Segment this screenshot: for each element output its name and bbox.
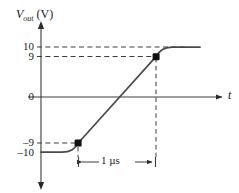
y-axis-arrow-down bbox=[38, 182, 44, 190]
y-axis-title-subscript: out bbox=[23, 14, 33, 23]
y-axis-title: Vout (V) bbox=[16, 8, 53, 23]
vout-curve bbox=[41, 47, 200, 152]
x-axis-title: t bbox=[228, 89, 231, 101]
marker-upper-knee bbox=[153, 53, 160, 60]
y-tick-label-9: 9 bbox=[8, 51, 34, 62]
y-axis-title-units: (V) bbox=[37, 7, 54, 21]
slew-rate-figure: Vout (V) 10 9 0 –9 –10 t 1 µs bbox=[0, 0, 239, 193]
interval-label: 1 µs bbox=[101, 155, 120, 166]
marker-lower-knee bbox=[75, 140, 82, 147]
y-tick-label-minus10: –10 bbox=[4, 147, 34, 158]
y-tick-label-0: 0 bbox=[8, 91, 34, 102]
